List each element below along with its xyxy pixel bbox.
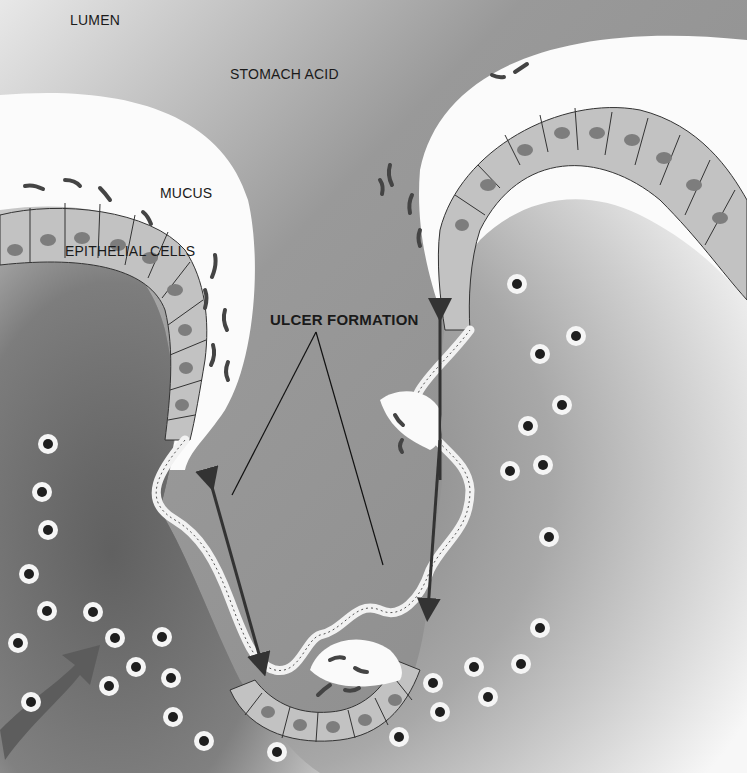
- ulcer-diagram: LUMEN STOMACH ACID MUCUS EPITHELIAL CELL…: [0, 0, 747, 773]
- label-mucus: MUCUS: [160, 185, 212, 201]
- label-stomach-acid: STOMACH ACID: [230, 66, 339, 82]
- ulcer-illustration: [0, 0, 747, 773]
- label-ulcer-formation: ULCER FORMATION: [270, 311, 419, 328]
- label-epithelial-cells: EPITHELIAL CELLS: [65, 243, 195, 259]
- label-lumen: LUMEN: [70, 12, 120, 28]
